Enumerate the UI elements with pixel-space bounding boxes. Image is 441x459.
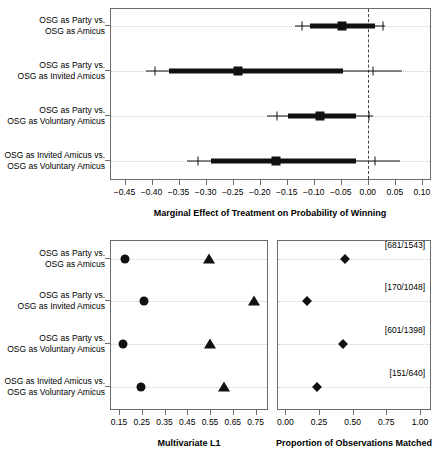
gridline-row [111,387,267,388]
bottom-right-x-tick [353,410,354,415]
top-x-tick-label: −0.45 [114,187,136,197]
bottom-left-x-tick [210,410,211,415]
confidence-interval-endcap [368,112,369,121]
top-x-tick [152,180,153,185]
point-estimate-marker [233,67,242,76]
bottom-left-category-label: OSG as Party vs.OSG as Amicus [39,248,105,270]
top-category-label: OSG as Invited Amicus vs.OSG as Voluntar… [4,150,105,172]
top-x-tick-label: −0.35 [168,187,190,197]
bottom-left-y-tick [105,258,110,259]
panel-proportion-matched: [681/1543][170/1048][601/1398][151/640] [277,240,431,410]
bottom-left-plot-area [111,241,267,409]
matched-l1-marker [119,340,128,349]
bottom-right-x-tick-label: 0.75 [378,417,395,427]
top-x-tick-label: 0.00 [360,187,377,197]
bottom-left-x-tick [233,410,234,415]
confidence-interval-endcap [373,67,374,76]
unmatched-l1-marker [204,339,216,349]
unmatched-l1-marker [203,254,215,264]
gridline-row [278,387,430,388]
bottom-left-y-tick [105,300,110,301]
top-x-tick [395,180,396,185]
top-x-tick [341,180,342,185]
unmatched-l1-marker [218,382,230,392]
panel-marginal-effects [110,8,431,180]
confidence-interval-endcap [382,22,383,31]
proportion-matched-marker [338,339,348,349]
match-count-annotation: [681/1543] [385,241,425,250]
panel-multivariate-l1 [110,240,268,410]
top-x-tick-label: −0.05 [330,187,352,197]
bottom-left-x-tick [165,410,166,415]
top-category-label: OSG as Party vs.OSG as Invited Amicus [18,60,105,82]
top-x-tick [260,180,261,185]
bottom-right-x-tick-label: 0.00 [277,417,294,427]
confidence-interval-endcap [301,22,302,31]
bottom-left-category-label: OSG as Party vs.OSG as Voluntary Amicus [7,333,105,355]
point-estimate-marker [271,157,280,166]
bottom-left-y-tick [105,386,110,387]
gridline-row [111,344,267,345]
matched-l1-marker [137,383,146,392]
point-estimate-marker [316,112,325,121]
top-x-tick-label: 0.05 [387,187,404,197]
confidence-interval-endcap [198,157,199,166]
confidence-interval-endcap [374,157,375,166]
bottom-right-x-tick-label: 0.50 [344,417,361,427]
bottom-left-x-axis-title: Multivariate L1 [157,438,220,448]
bottom-left-x-tick [142,410,143,415]
unmatched-l1-marker [248,296,260,306]
bottom-left-x-tick [187,410,188,415]
matched-l1-marker [120,255,129,264]
statistical-figure: OSG as Party vs.OSG as AmicusOSG as Part… [0,0,441,459]
gridline-row [278,344,430,345]
bottom-left-x-tick [256,410,257,415]
confidence-interval-endcap [276,112,277,121]
top-category-label: OSG as Party vs.OSG as Voluntary Amicus [7,105,105,127]
bottom-left-y-tick [105,343,110,344]
top-x-tick-label: −0.20 [249,187,271,197]
zero-reference-line [368,9,369,179]
bottom-left-x-tick [119,410,120,415]
match-count-annotation: [151/640] [390,368,425,378]
proportion-matched-marker [302,296,312,306]
proportion-matched-marker [340,254,350,264]
top-x-tick [314,180,315,185]
bottom-left-x-tick-label: 0.25 [133,417,150,427]
top-x-axis-title: Marginal Effect of Treatment on Probabil… [154,208,386,218]
top-x-tick-label: −0.25 [222,187,244,197]
bottom-right-x-tick [319,410,320,415]
top-x-tick-label: −0.40 [141,187,163,197]
top-x-tick-label: −0.30 [195,187,217,197]
bottom-right-x-axis-title: Proportion of Observations Matched [276,438,432,448]
top-x-tick-label: 0.10 [414,187,431,197]
top-y-tick [105,70,110,71]
top-x-tick [233,180,234,185]
bottom-left-x-tick-label: 0.65 [225,417,242,427]
gridline-row [111,259,267,260]
top-x-tick-label: −0.15 [276,187,298,197]
bottom-left-x-tick-label: 0.75 [247,417,264,427]
top-category-label: OSG as Party vs.OSG as Amicus [39,15,105,37]
top-x-tick [179,180,180,185]
top-x-tick [287,180,288,185]
bottom-right-x-tick [285,410,286,415]
top-y-tick [105,115,110,116]
bottom-left-x-tick-label: 0.35 [156,417,173,427]
confidence-interval-endcap [154,67,155,76]
top-x-tick [206,180,207,185]
proportion-matched-marker [312,382,322,392]
match-count-annotation: [170/1048] [385,282,425,292]
bottom-left-category-label: OSG as Party vs.OSG as Invited Amicus [18,290,105,312]
point-estimate-marker [338,22,347,31]
bottom-left-x-tick-label: 0.45 [179,417,196,427]
bottom-left-category-label: OSG as Invited Amicus vs.OSG as Voluntar… [4,376,105,398]
bottom-right-x-tick-label: 0.25 [311,417,328,427]
top-x-tick [125,180,126,185]
top-y-tick [105,25,110,26]
bottom-right-plot-area: [681/1543][170/1048][601/1398][151/640] [278,241,430,409]
top-x-tick [368,180,369,185]
bottom-right-x-tick [386,410,387,415]
gridline-row [111,301,267,302]
gridline-row [278,259,430,260]
